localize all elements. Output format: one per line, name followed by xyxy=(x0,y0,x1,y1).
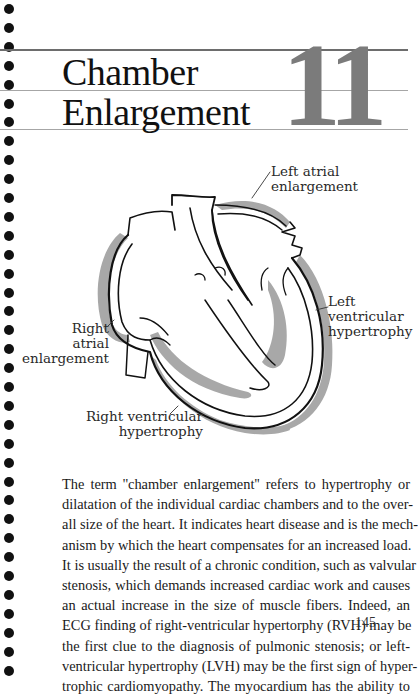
body-line: the first clue to the diagnosis of pulmo… xyxy=(62,636,410,656)
interventricular-septum xyxy=(205,300,275,390)
chapter-number: 11 xyxy=(282,36,382,136)
binding-hole xyxy=(4,628,14,638)
chapter-title-line-1: Chamber xyxy=(62,52,250,92)
label-right-ventricular-hypertrophy: Right ventricular hypertrophy xyxy=(70,409,203,439)
body-line: The term ''chamber enlargement'' refers … xyxy=(62,474,410,494)
body-line: an actual increase in the size of muscle… xyxy=(62,595,410,615)
pulmonary-artery xyxy=(190,208,252,305)
body-line: ventricular hypertrophy (LVH) may be the… xyxy=(62,656,410,676)
chapter-title-line-2: Enlargement xyxy=(62,92,250,132)
binding-hole xyxy=(4,80,14,90)
binding-hole xyxy=(4,590,14,600)
binding-hole xyxy=(4,609,14,619)
chapter-title: Chamber Enlargement xyxy=(62,52,250,132)
body-line: all size of the heart. It indicates hear… xyxy=(62,514,410,534)
heart-outer-wall xyxy=(109,235,323,428)
binding-hole xyxy=(4,4,14,14)
binding-hole xyxy=(4,647,14,657)
label-left-atrial-enlargement: Left atrial enlargement xyxy=(271,164,358,194)
body-line: trophic cardiomyopathy. The myocardium h… xyxy=(62,676,410,696)
binding-hole xyxy=(4,23,14,33)
label-left-ventricular-hypertrophy: Left ventricular hypertrophy xyxy=(328,294,412,339)
body-paragraph: The term ''chamber enlargement'' refers … xyxy=(62,474,410,696)
leader-left-atrial xyxy=(252,172,270,198)
aorta xyxy=(172,195,248,300)
body-line: It is usually the result of a chronic co… xyxy=(62,555,410,575)
body-line: stenosis, which demands increased cardia… xyxy=(62,575,410,595)
binding-hole xyxy=(4,117,14,127)
binding-hole xyxy=(4,458,14,468)
binding-hole xyxy=(4,477,14,487)
inner-rv-shading xyxy=(150,332,251,398)
binding-hole xyxy=(4,666,14,676)
body-line: anism by which the heart compensates for… xyxy=(62,535,410,555)
label-right-atrial-enlargement: Right atrial enlargement xyxy=(14,321,109,366)
binding-hole xyxy=(4,495,14,505)
binding-hole xyxy=(4,514,14,524)
aortic-valve xyxy=(195,267,225,280)
page-number: 145 xyxy=(355,615,376,631)
binding-hole xyxy=(4,61,14,71)
binding-hole xyxy=(4,571,14,581)
pulmonary-veins xyxy=(282,222,302,258)
body-line: dilatation of the individual cardiac cha… xyxy=(62,494,410,514)
binding-hole xyxy=(4,99,14,109)
binding-hole xyxy=(4,136,14,146)
binding-hole xyxy=(4,552,14,562)
binding-hole xyxy=(4,533,14,543)
superior-vena-cava xyxy=(128,211,175,235)
